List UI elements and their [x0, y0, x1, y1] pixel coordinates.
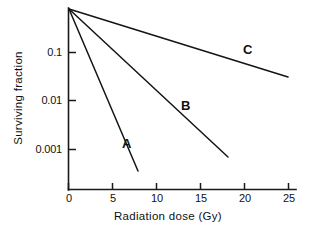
x-tick-label-1: 5 — [110, 192, 116, 204]
x-axis-title: Radiation dose (Gy) — [114, 210, 222, 222]
y-axis-title: Surviving fraction — [12, 51, 24, 145]
x-tick-label-5: 25 — [283, 192, 295, 204]
x-tick-label-4: 20 — [239, 192, 251, 204]
survival-curve-figure: 0.1 0.01 0.001 0 5 10 15 20 25 Radiation… — [0, 0, 317, 234]
series-line-c — [69, 9, 288, 77]
series-label-c: C — [243, 42, 252, 57]
series-label-a: A — [122, 136, 131, 151]
x-tick-label-0: 0 — [66, 192, 72, 204]
x-tick-label-3: 15 — [195, 192, 207, 204]
x-tick-label-2: 10 — [151, 192, 163, 204]
series-line-b — [69, 9, 228, 157]
series-label-b: B — [181, 98, 190, 113]
